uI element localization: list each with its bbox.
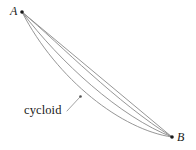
cycloid-figure: A B cycloid (0, 0, 196, 150)
cycloid-leader-line (67, 97, 80, 111)
point-b-label: B (177, 131, 184, 143)
point-a-dot (20, 10, 24, 14)
point-b-dot (170, 135, 174, 139)
cycloid-label: cycloid (24, 104, 62, 117)
cycloid-leader-tip-dot (79, 95, 82, 98)
figure-canvas (0, 0, 196, 150)
point-a-label: A (10, 5, 17, 17)
curve-chord (22, 12, 172, 137)
